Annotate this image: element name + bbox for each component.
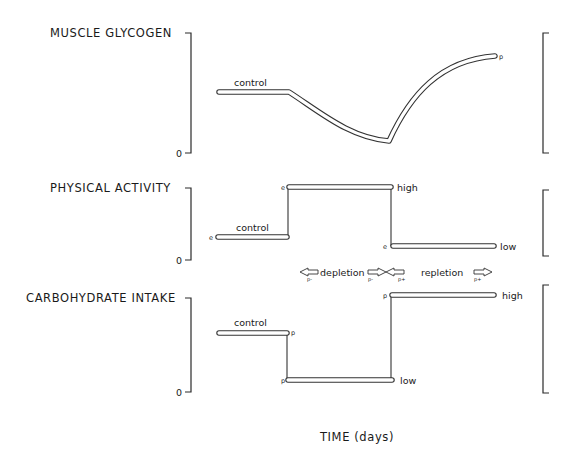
muscle-glycogen-control-label: control [234,77,267,88]
carbohydrate-intake-low-marker: p [281,377,285,385]
panel-carbohydrate-intake: CARBOHYDRATE INTAKE 0 control p p low p … [26,285,549,398]
physical-activity-control-label: control [236,222,269,233]
carbohydrate-intake-zero-label: 0 [176,387,182,398]
depletion-label: depletion [320,267,365,278]
x-axis-label: TIME (days) [319,430,394,444]
phase-arrows: p- depletion p- p+ repletion p+ [300,267,492,283]
muscle-glycogen-zero-label: 0 [176,148,182,159]
carbohydrate-intake-low-label: low [400,375,416,386]
arrow-mark-4: p+ [474,276,481,283]
depletion-left-arrow-icon [300,268,318,276]
depletion-right-arrow-icon [368,268,386,276]
muscle-glycogen-curve [219,56,495,141]
arrow-mark-2: p- [368,276,373,283]
panel-muscle-glycogen: MUSCLE GLYCOGEN 0 control p [50,26,549,159]
carbohydrate-intake-axis [185,298,191,392]
muscle-glycogen-right-bracket [543,33,549,153]
repletion-label: repletion [421,267,463,278]
physical-activity-low-marker: e [383,243,387,251]
repletion-right-arrow-icon [474,268,492,276]
physical-activity-title: PHYSICAL ACTIVITY [50,181,171,195]
carbohydrate-intake-high-marker: p [383,292,387,300]
glycogen-depletion-diagram: MUSCLE GLYCOGEN 0 control p PHYSICAL ACT… [0,0,579,454]
physical-activity-axis [185,188,191,260]
physical-activity-control-marker: e [209,234,213,242]
physical-activity-high-label: high [397,182,418,193]
panel-physical-activity: PHYSICAL ACTIVITY 0 control e e high e l… [50,181,549,266]
carbohydrate-intake-high-label: high [502,290,523,301]
physical-activity-right-bracket [543,190,549,256]
repletion-left-arrow-icon [386,268,404,276]
physical-activity-low-label: low [500,241,516,252]
carbohydrate-intake-control-marker: p [291,329,295,337]
muscle-glycogen-axis [185,33,191,153]
muscle-glycogen-end-marker: p [499,53,503,61]
muscle-glycogen-title: MUSCLE GLYCOGEN [50,26,172,40]
carbohydrate-intake-control-label: control [234,317,267,328]
physical-activity-high-marker: e [281,184,285,192]
arrow-mark-3: p+ [398,276,405,283]
physical-activity-zero-label: 0 [176,255,182,266]
arrow-mark-1: p- [307,276,312,283]
carbohydrate-intake-title: CARBOHYDRATE INTAKE [26,291,176,305]
carbohydrate-intake-right-bracket [543,285,549,393]
